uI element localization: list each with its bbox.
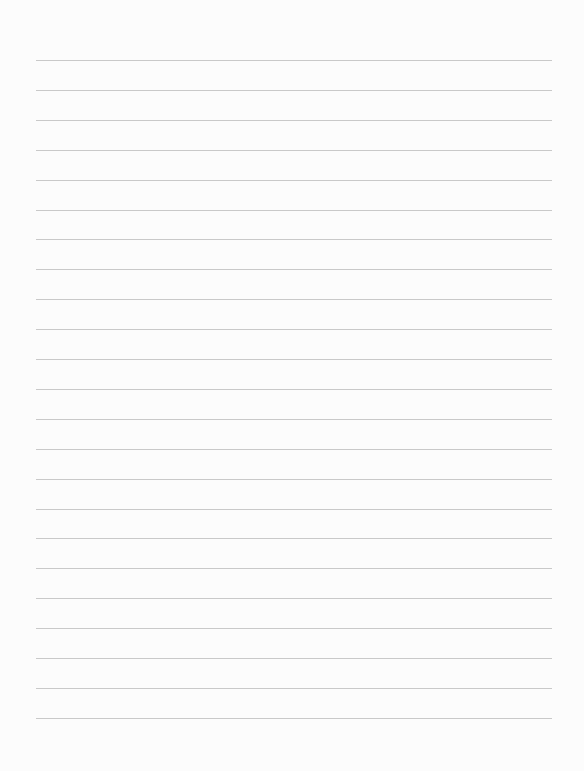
ruled-line: [36, 269, 552, 270]
ruled-line: [36, 449, 552, 450]
ruled-line: [36, 568, 552, 569]
ruled-line: [36, 479, 552, 480]
ruled-line: [36, 419, 552, 420]
ruled-line: [36, 239, 552, 240]
ruled-line: [36, 538, 552, 539]
ruled-line: [36, 60, 552, 61]
ruled-line: [36, 658, 552, 659]
ruled-line: [36, 509, 552, 510]
ruled-line: [36, 329, 552, 330]
ruled-line: [36, 180, 552, 181]
lined-paper-sheet: [0, 0, 584, 771]
ruled-line: [36, 150, 552, 151]
ruled-line: [36, 628, 552, 629]
ruled-line: [36, 688, 552, 689]
ruled-line: [36, 598, 552, 599]
ruled-line: [36, 718, 552, 719]
ruled-line: [36, 359, 552, 360]
ruled-line: [36, 389, 552, 390]
ruled-line: [36, 210, 552, 211]
ruled-line: [36, 120, 552, 121]
ruled-line: [36, 299, 552, 300]
ruled-line: [36, 90, 552, 91]
